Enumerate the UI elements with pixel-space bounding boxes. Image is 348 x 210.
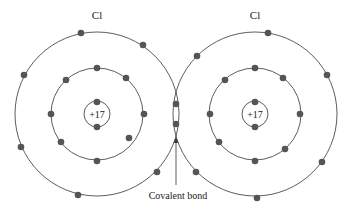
diagram-canvas: Cl Cl +17 +17 Covalent bond: [0, 0, 348, 210]
electron: [58, 139, 65, 146]
electron: [207, 111, 214, 118]
electron: [126, 135, 133, 142]
electron: [75, 192, 82, 199]
nucleus-charge-right: +17: [247, 109, 263, 120]
electron: [94, 99, 101, 106]
electron: [63, 77, 70, 84]
nucleus-charge-left: +17: [89, 109, 105, 120]
electron: [21, 72, 28, 79]
electron: [154, 169, 161, 176]
electron: [252, 124, 259, 131]
electron: [123, 75, 130, 82]
electron: [222, 77, 229, 84]
atom-label-left: Cl: [92, 9, 102, 21]
electron: [216, 139, 223, 146]
atom-label-right: Cl: [250, 9, 260, 21]
electron: [94, 158, 101, 165]
electron: [48, 111, 55, 118]
bond-electron: [173, 101, 180, 108]
electron: [94, 124, 101, 131]
electron: [324, 72, 331, 79]
electron: [265, 30, 272, 37]
electron: [78, 30, 85, 37]
electron: [280, 75, 287, 82]
electron: [194, 53, 201, 60]
electron: [252, 65, 259, 72]
electron: [140, 42, 147, 49]
electron: [254, 195, 261, 202]
electron: [319, 159, 326, 166]
electron: [141, 111, 148, 118]
bond-electron: [173, 121, 180, 128]
electron: [252, 158, 259, 165]
bond-label: Covalent bond: [149, 190, 208, 201]
electron: [297, 111, 304, 118]
electron: [252, 99, 259, 106]
electron: [193, 169, 200, 176]
cl2-diagram: Cl Cl +17 +17 Covalent bond: [0, 0, 348, 210]
electron: [18, 144, 25, 151]
electron: [94, 65, 101, 72]
electron: [282, 146, 289, 153]
